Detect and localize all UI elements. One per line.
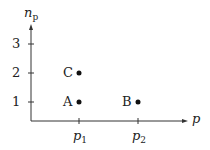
point-c-label: C <box>63 66 73 79</box>
x-axis-arrow-icon <box>182 119 188 123</box>
axes <box>0 0 210 150</box>
y-axis-arrow-icon <box>29 24 33 30</box>
point-c <box>77 71 82 76</box>
x-tick-label-p2: p2 <box>132 129 146 142</box>
x-axis-label: p <box>192 112 200 125</box>
point-b-label: B <box>122 95 132 108</box>
point-a <box>77 100 82 105</box>
x-tick-label-p1: p1 <box>73 129 87 142</box>
y-axis-label: np <box>24 6 38 19</box>
y-tick-label-1: 1 <box>12 95 20 108</box>
point-b <box>136 100 141 105</box>
y-tick-label-3: 3 <box>12 37 20 50</box>
y-tick-label-2: 2 <box>12 66 20 79</box>
point-a-label: A <box>63 95 72 108</box>
